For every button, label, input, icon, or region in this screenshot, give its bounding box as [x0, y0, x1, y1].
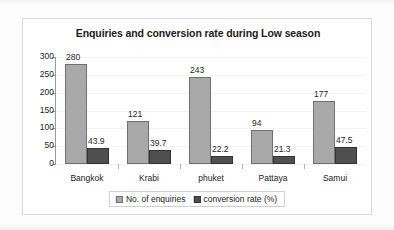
bar-value-label: 280 [66, 52, 80, 62]
x-axis-label: Bangkok [56, 173, 118, 183]
legend-entry: No. of enquiries [116, 194, 186, 204]
x-axis-label: Pattaya [242, 173, 304, 183]
bar-value-label: 22.2 [212, 144, 229, 154]
x-tick-mark [180, 164, 181, 169]
bar-group: 24322.2 [180, 57, 242, 164]
chart-screenshot: Enquiries and conversion rate during Low… [0, 0, 394, 230]
y-gridline [56, 164, 366, 165]
legend-swatch-enquiries-icon [116, 196, 123, 203]
y-tick-label: 250 [40, 69, 54, 79]
plot-area: 300250200150100500 28043.912139.724322.2… [56, 57, 366, 164]
bar-enquiries [251, 130, 273, 164]
y-tick-label: 300 [40, 51, 54, 61]
x-tick-mark [242, 164, 243, 169]
bar-conversion-rate [335, 147, 357, 164]
y-tick-label: 50 [45, 140, 54, 150]
y-tick-label: 150 [40, 105, 54, 115]
chart-frame: Enquiries and conversion rate during Low… [22, 18, 372, 215]
bar-enquiries [313, 101, 335, 164]
bar-value-label: 121 [128, 109, 142, 119]
bar-enquiries [65, 64, 87, 164]
bar-conversion-rate [211, 156, 233, 164]
chart-legend: No. of enquiriesconversion rate (%) [109, 191, 285, 207]
bar-group: 9421.3 [242, 57, 304, 164]
bar-enquiries [189, 77, 211, 164]
bar-group: 17747.5 [304, 57, 366, 164]
x-axis-label: phuket [180, 173, 242, 183]
bar-value-label: 39.7 [150, 138, 167, 148]
bar-enquiries [127, 121, 149, 164]
scan-edge-bottom [0, 224, 394, 230]
bar-conversion-rate [87, 148, 109, 164]
x-tick-mark [118, 164, 119, 169]
x-tick-mark [304, 164, 305, 169]
bar-value-label: 94 [252, 118, 261, 128]
bar-value-label: 177 [314, 89, 328, 99]
bar-group: 12139.7 [118, 57, 180, 164]
x-axis-label: Krabi [118, 173, 180, 183]
y-tick-label: 100 [40, 122, 54, 132]
bar-value-label: 243 [190, 65, 204, 75]
legend-label: No. of enquiries [126, 194, 186, 204]
x-axis-label: Samui [304, 173, 366, 183]
y-tick-label: 200 [40, 87, 54, 97]
legend-swatch-conversion-icon [193, 196, 200, 203]
legend-label: conversion rate (%) [203, 194, 277, 204]
legend-entry: conversion rate (%) [193, 194, 277, 204]
bar-conversion-rate [273, 156, 295, 164]
bar-value-label: 43.9 [88, 136, 105, 146]
bar-value-label: 47.5 [336, 135, 353, 145]
scan-edge-top [0, 0, 394, 5]
bar-group: 28043.9 [56, 57, 118, 164]
y-tick-label: 0 [49, 158, 54, 168]
bar-value-label: 21.3 [274, 144, 291, 154]
chart-title: Enquiries and conversion rate during Low… [23, 27, 373, 39]
bar-conversion-rate [149, 150, 171, 164]
